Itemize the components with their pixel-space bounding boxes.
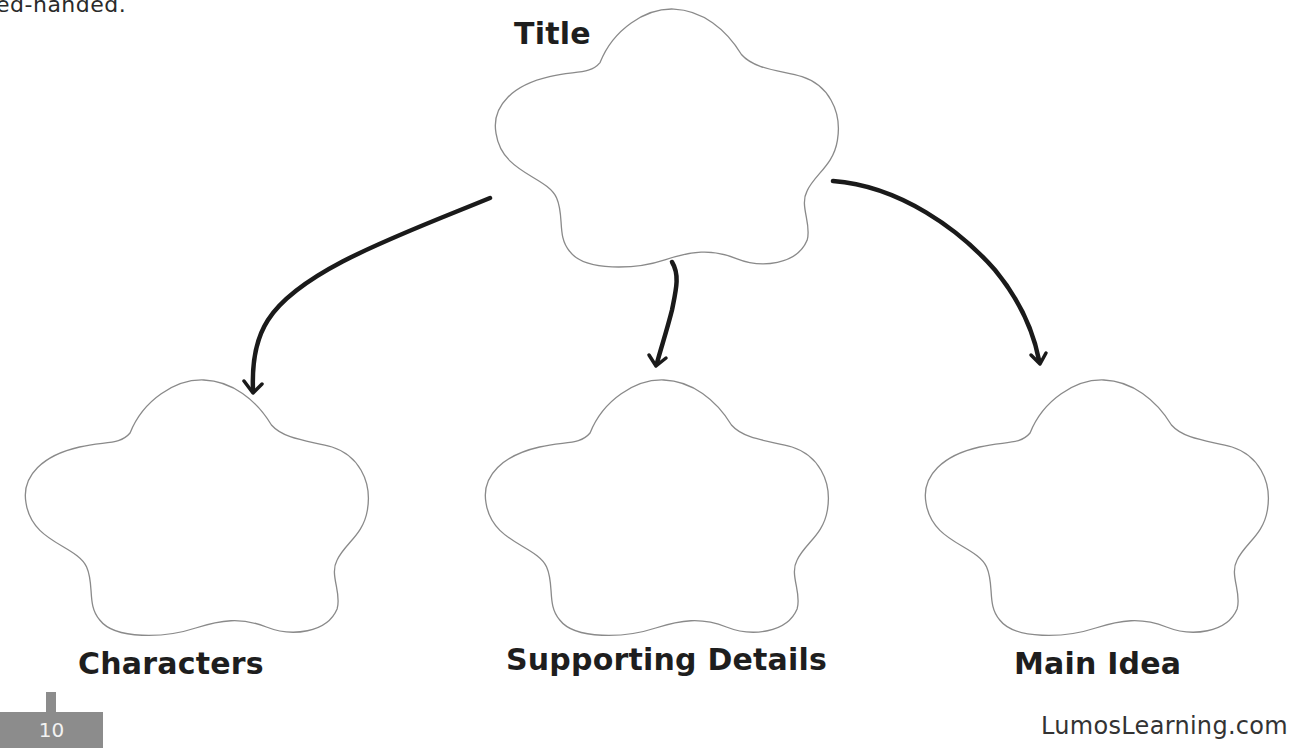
footer-site-name: LumosLearning.com: [1041, 712, 1288, 740]
organizer-diagram: [0, 0, 1294, 748]
arrow-to-supporting-details: [649, 262, 677, 366]
cloud-characters: [25, 380, 368, 635]
label-characters: Characters: [78, 646, 264, 681]
label-title: Title: [514, 16, 591, 51]
arrow-to-main-idea: [833, 181, 1046, 364]
label-main-idea: Main Idea: [1014, 646, 1181, 681]
cloud-supporting-details: [485, 380, 828, 635]
arrow-to-characters: [244, 198, 490, 393]
page-badge-tab: [46, 692, 56, 714]
label-supporting-details: Supporting Details: [506, 642, 827, 677]
page-number: 10: [0, 712, 103, 748]
cloud-main-idea: [925, 380, 1268, 635]
